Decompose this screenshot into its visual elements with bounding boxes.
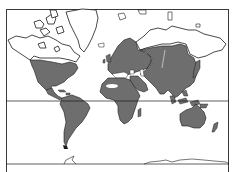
new-zealand-range	[212, 122, 218, 132]
south-america-range	[60, 95, 90, 146]
caribbean-islands	[58, 90, 70, 95]
sahara-gap	[106, 84, 118, 88]
world-range-map: World distribution range map	[0, 0, 235, 172]
north-america-range	[30, 60, 78, 90]
map-canvas	[0, 0, 235, 172]
british-isles	[103, 54, 111, 63]
greenland	[66, 9, 98, 52]
antarctica-outline	[64, 156, 229, 164]
arctic-islands	[118, 10, 200, 27]
madagascar	[138, 108, 141, 117]
iceland	[98, 43, 104, 47]
